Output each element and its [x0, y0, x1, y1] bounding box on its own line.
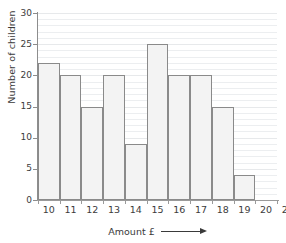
bar — [38, 63, 60, 200]
y-tick-label: 25 — [2, 40, 32, 49]
y-tick-label: 30 — [2, 9, 32, 18]
x-tick-label: 21 — [276, 204, 286, 215]
bar — [147, 44, 169, 200]
x-tick-label: 11 — [59, 204, 83, 215]
y-tick-mark — [33, 44, 37, 45]
bar — [212, 107, 234, 201]
x-tick-mark — [168, 201, 169, 204]
x-tick-label: 10 — [37, 204, 61, 215]
x-tick-mark — [190, 201, 191, 204]
bar — [234, 175, 256, 200]
bar-series — [38, 13, 277, 200]
y-tick-label: 20 — [2, 71, 32, 80]
x-tick-label: 19 — [232, 204, 256, 215]
y-tick-label: 5 — [2, 164, 32, 173]
x-tick-label: 13 — [102, 204, 126, 215]
x-tick-mark — [38, 201, 39, 204]
y-axis-line — [37, 12, 38, 201]
bar — [81, 107, 103, 201]
x-tick-label: 15 — [146, 204, 170, 215]
histogram-chart: Number of children 051015202530 10111213… — [0, 0, 286, 243]
bar — [103, 75, 125, 200]
x-axis-title-container: Amount £ — [38, 223, 277, 239]
y-tick-mark — [33, 13, 37, 14]
x-tick-mark — [147, 201, 148, 204]
x-tick-mark — [255, 201, 256, 204]
bar — [125, 144, 147, 200]
bar — [190, 75, 212, 200]
y-tick-label: 10 — [2, 133, 32, 142]
x-tick-mark — [103, 201, 104, 204]
y-tick-mark — [33, 138, 37, 139]
x-tick-label: 20 — [254, 204, 278, 215]
y-tick-mark — [33, 200, 37, 201]
y-tick-mark — [33, 107, 37, 108]
x-tick-label: 17 — [189, 204, 213, 215]
bar — [168, 75, 190, 200]
y-tick-label: 0 — [2, 196, 32, 205]
x-axis-title: Amount £ — [108, 226, 154, 237]
y-tick-mark — [33, 169, 37, 170]
x-tick-mark — [234, 201, 235, 204]
y-tick-label: 15 — [2, 102, 32, 111]
x-tick-mark — [60, 201, 61, 204]
y-tick-mark — [33, 75, 37, 76]
x-tick-mark — [277, 201, 278, 204]
y-axis-title: Number of children — [5, 0, 19, 132]
x-tick-label: 16 — [167, 204, 191, 215]
x-tick-label: 12 — [80, 204, 104, 215]
x-tick-mark — [125, 201, 126, 204]
x-tick-mark — [212, 201, 213, 204]
arrow-right-icon — [161, 228, 207, 235]
x-tick-label: 14 — [124, 204, 148, 215]
bar — [60, 75, 82, 200]
x-axis-line — [37, 200, 279, 201]
plot-area — [38, 13, 277, 200]
x-tick-mark — [81, 201, 82, 204]
x-tick-label: 18 — [211, 204, 235, 215]
